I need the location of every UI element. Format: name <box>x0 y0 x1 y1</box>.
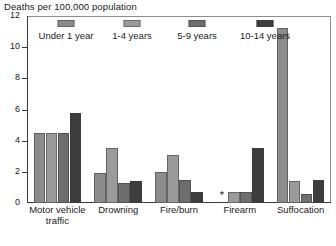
chart-axis-title: Deaths per 100,000 population <box>4 1 137 12</box>
bar <box>94 173 106 203</box>
bar <box>240 192 252 203</box>
bar <box>167 155 179 203</box>
bar <box>106 148 118 203</box>
bar <box>191 192 203 203</box>
bar <box>70 113 82 203</box>
bar <box>301 194 313 203</box>
y-axis-tick-label: 12 <box>10 10 20 20</box>
bar <box>155 172 167 203</box>
y-axis-tick-label: 10 <box>10 41 20 51</box>
bar <box>277 28 289 203</box>
legend-label: 5-9 years <box>177 30 217 41</box>
legend-color-swatch <box>58 20 75 27</box>
legend-color-swatch <box>124 20 141 27</box>
category-label-line: Drowning <box>88 205 149 216</box>
bar <box>313 180 325 203</box>
bar <box>46 133 58 203</box>
y-axis-tick-label: 2 <box>15 166 20 176</box>
chart-legend: Under 1 year1-4 years5-9 years10-14 year… <box>27 20 331 46</box>
x-axis-category-label: Fire/burn <box>149 205 210 216</box>
suppressed-value-asterisk: * <box>216 190 228 201</box>
bar-chart: Deaths per 100,000 population 024681012 … <box>0 0 336 246</box>
legend-label: 1-4 years <box>112 30 152 41</box>
x-axis-category-labels: Motor vehicletrafficDrowningFire/burnFir… <box>27 205 331 245</box>
x-axis-category-label: Drowning <box>88 205 149 216</box>
category-label-line: Fire/burn <box>149 205 210 216</box>
category-label-line: Firearm <box>209 205 270 216</box>
legend-color-swatch <box>257 20 274 27</box>
y-axis-tick-label: 0 <box>15 197 20 207</box>
legend-label: 10-14 years <box>240 30 290 41</box>
x-axis-category-label: Motor vehicletraffic <box>27 205 88 226</box>
bar <box>34 133 46 203</box>
legend-color-swatch <box>189 20 206 27</box>
y-axis-tick-label: 8 <box>15 72 20 82</box>
category-label-line: Suffocation <box>270 205 331 216</box>
bar <box>118 183 130 203</box>
bar <box>228 192 240 203</box>
bar <box>252 148 264 203</box>
category-label-line: Motor vehicle <box>27 205 88 216</box>
x-axis-category-label: Firearm <box>209 205 270 216</box>
y-axis-tick-label: 6 <box>15 104 20 114</box>
y-axis-tick-label: 4 <box>15 135 20 145</box>
bar <box>58 133 70 203</box>
legend-label: Under 1 year <box>39 30 94 41</box>
x-axis-category-label: Suffocation <box>270 205 331 216</box>
bar <box>130 181 142 203</box>
category-label-line: traffic <box>27 216 88 227</box>
bar <box>179 180 191 203</box>
bar <box>289 181 301 203</box>
